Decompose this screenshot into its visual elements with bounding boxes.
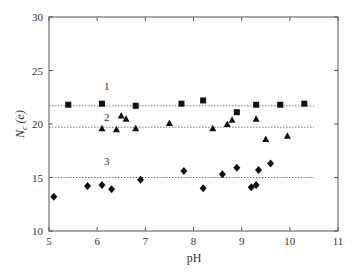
y-tick-label: 20 xyxy=(32,118,44,130)
square-marker xyxy=(99,101,105,107)
diamond-marker xyxy=(108,185,115,193)
diamond-marker xyxy=(98,181,105,189)
triangle-marker xyxy=(229,116,236,123)
x-tick-label: 10 xyxy=(284,235,296,247)
square-marker xyxy=(178,101,184,107)
diamond-marker xyxy=(219,170,226,178)
x-tick-label: 8 xyxy=(191,235,197,247)
triangle-marker xyxy=(98,125,105,132)
x-tick-label: 5 xyxy=(46,235,52,247)
diamond-marker xyxy=(137,176,144,184)
triangle-marker xyxy=(262,135,269,142)
square-marker xyxy=(253,102,259,108)
series-label-2: 2 xyxy=(104,111,110,123)
diamond-marker xyxy=(267,160,274,168)
x-axis-label: pH xyxy=(187,251,202,265)
series-label-3: 3 xyxy=(104,155,110,167)
square-marker xyxy=(133,103,139,109)
x-tick-label: 9 xyxy=(239,235,245,247)
y-tick-label: 25 xyxy=(32,65,44,77)
plot-area: 5678910111015202530123 xyxy=(32,11,343,247)
y-tick-label: 15 xyxy=(32,172,44,184)
diamond-marker xyxy=(180,167,187,175)
triangle-marker xyxy=(166,119,173,126)
scatter-chart: 5678910111015202530123 pH Nc (e) xyxy=(0,0,354,275)
square-marker xyxy=(301,101,307,107)
diamond-marker xyxy=(200,184,207,192)
triangle-marker xyxy=(284,132,291,139)
plot-frame xyxy=(49,17,338,231)
square-marker xyxy=(65,102,71,108)
triangle-marker xyxy=(118,112,125,119)
x-tick-label: 6 xyxy=(94,235,100,247)
y-axis-label: Nc (e) xyxy=(13,110,29,139)
y-tick-label: 30 xyxy=(32,11,44,23)
triangle-marker xyxy=(132,125,139,132)
diamond-marker xyxy=(233,164,240,172)
diamond-marker xyxy=(50,193,57,201)
x-tick-label: 11 xyxy=(333,235,344,247)
square-marker xyxy=(200,97,206,103)
triangle-marker xyxy=(253,115,260,122)
series-label-1: 1 xyxy=(104,80,110,92)
diamond-marker xyxy=(84,182,91,190)
square-marker xyxy=(277,102,283,108)
triangle-marker xyxy=(209,125,216,132)
diamond-marker xyxy=(255,166,262,174)
y-tick-label: 10 xyxy=(32,225,44,237)
square-marker xyxy=(234,109,240,115)
x-tick-label: 7 xyxy=(143,235,149,247)
